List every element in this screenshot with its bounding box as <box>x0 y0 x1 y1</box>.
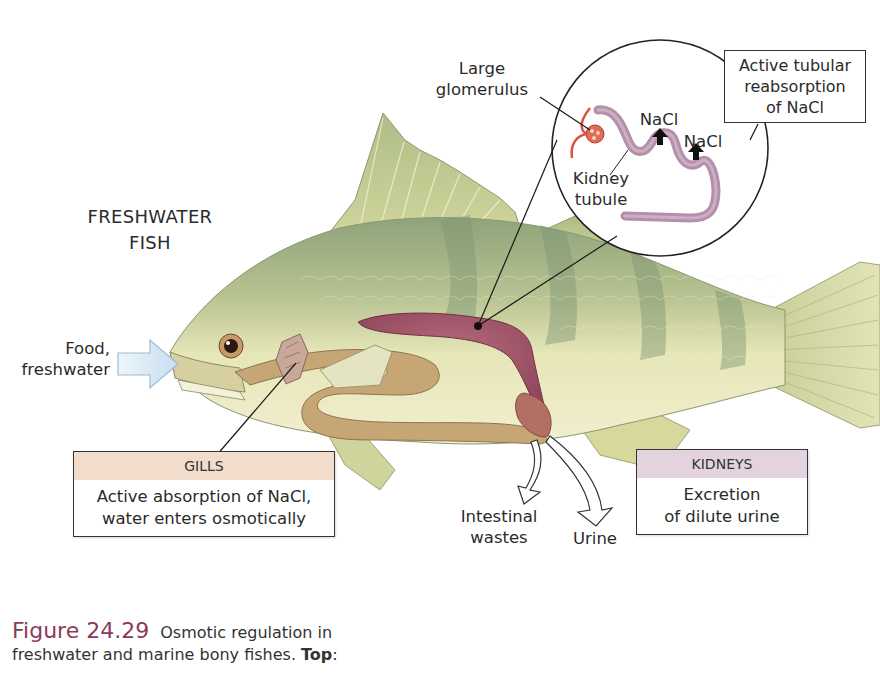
fish-eye <box>219 334 243 358</box>
intake-arrow <box>118 340 178 388</box>
caption-colon: : <box>332 645 337 664</box>
intestinal-wastes-label: Intestinal wastes <box>452 506 546 548</box>
caption-line-2: freshwater and marine bony fishes. <box>12 645 296 664</box>
gills-box: GILLS Active absorption of NaCl, water e… <box>73 451 335 537</box>
kidney-pointer-dot <box>474 322 482 330</box>
gills-heading: GILLS <box>74 452 334 480</box>
reabsorption-line-2: reabsorption <box>731 76 859 97</box>
reabsorption-line-3: of NaCl <box>731 97 859 118</box>
gills-description: Active absorption of NaCl, water enters … <box>74 480 334 536</box>
title-line-1: FRESHWATER <box>60 204 240 230</box>
kidneys-heading: KIDNEYS <box>637 450 807 478</box>
glomerulus-line-2: glomerulus <box>422 79 542 100</box>
kidneys-line-2: of dilute urine <box>645 506 799 528</box>
figure-caption: Figure 24.29 Osmotic regulation in fresh… <box>12 620 432 666</box>
figure-number: Figure 24.29 <box>12 618 149 643</box>
intestinal-line-1: Intestinal <box>452 506 546 527</box>
gills-line-1: Active absorption of NaCl, <box>82 486 326 508</box>
intake-label-line-1: Food, <box>0 338 110 359</box>
urine-label: Urine <box>560 528 630 549</box>
nacl-label-1: NaCl <box>634 109 684 130</box>
tubule-line-2: tubule <box>566 189 636 210</box>
kidneys-description: Excretion of dilute urine <box>637 478 807 534</box>
glomerulus-label: Large glomerulus <box>422 58 542 100</box>
intake-label: Food, freshwater <box>0 338 110 380</box>
nacl-label-2: NaCl <box>678 131 728 152</box>
kidneys-box: KIDNEYS Excretion of dilute urine <box>636 449 808 535</box>
gills-line-2: water enters osmotically <box>82 508 326 530</box>
glomerulus-line-1: Large <box>422 58 542 79</box>
tubule-line-1: Kidney <box>566 168 636 189</box>
tail-fin <box>770 262 880 428</box>
title-line-2: FISH <box>60 230 240 256</box>
reabsorption-note: Active tubular reabsorption of NaCl <box>724 50 866 123</box>
caption-line-1: Osmotic regulation in <box>160 623 332 642</box>
intake-label-line-2: freshwater <box>0 359 110 380</box>
caption-bold: Top <box>301 645 332 664</box>
dorsal-fin <box>330 113 520 232</box>
intestinal-wastes-arrow <box>518 440 541 504</box>
kidney-tubule-label: Kidney tubule <box>566 168 636 210</box>
diagram-title: FRESHWATER FISH <box>60 204 240 256</box>
intestinal-line-2: wastes <box>452 527 546 548</box>
reabsorption-line-1: Active tubular <box>731 55 859 76</box>
kidneys-line-1: Excretion <box>645 484 799 506</box>
